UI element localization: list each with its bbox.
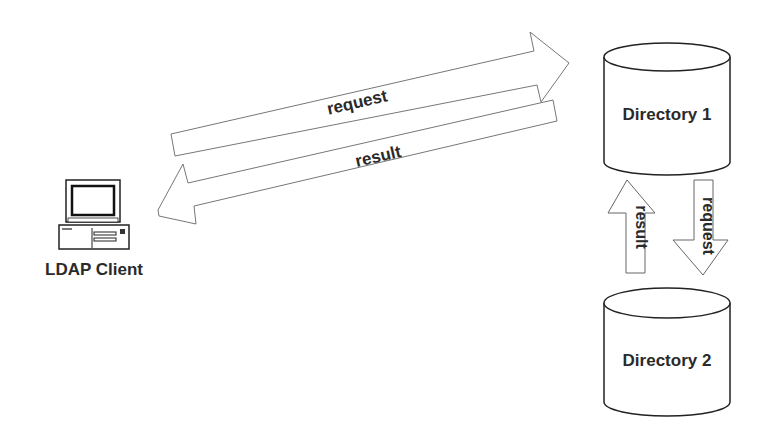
directory-1-cylinder: Directory 1 bbox=[604, 43, 730, 175]
ldap-diagram: request result LDAP Client Directory 1 r… bbox=[0, 0, 778, 442]
request-arrow-to-directory-1: request bbox=[171, 32, 569, 156]
directory-2-label: Directory 2 bbox=[623, 351, 712, 370]
ldap-client-label: LDAP Client bbox=[45, 260, 143, 279]
request-down-label: request bbox=[700, 197, 717, 255]
result-up-label: result bbox=[633, 205, 650, 249]
result-arrow-up: result bbox=[608, 180, 655, 273]
desktop-computer-icon bbox=[59, 180, 129, 249]
request-arrow-down: request bbox=[673, 180, 728, 275]
directory-1-label: Directory 1 bbox=[623, 105, 712, 124]
directory-2-cylinder: Directory 2 bbox=[604, 288, 730, 416]
